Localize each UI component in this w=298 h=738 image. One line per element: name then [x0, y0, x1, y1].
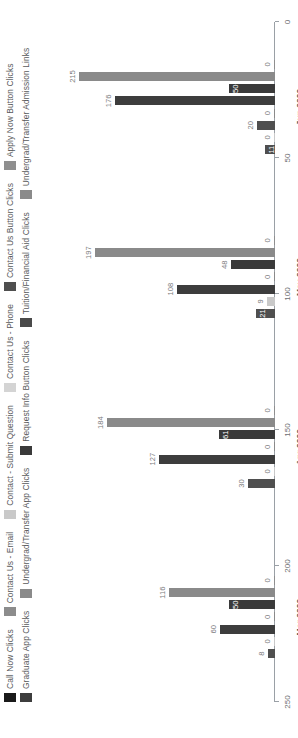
legend-swatch-icon — [4, 693, 16, 702]
bar-value-label: 0 — [263, 639, 272, 643]
category-axis-label: May 2020 — [295, 258, 298, 296]
bar[interactable]: 176 — [115, 96, 276, 105]
legend-swatch-icon — [20, 693, 32, 702]
legend-item[interactable]: Contact - Submit Question — [4, 405, 16, 519]
bar-value-label: 0 — [263, 578, 272, 582]
bar-value-label: 20 — [246, 121, 255, 129]
plot-area: 25020015010050080600501160Mar 2020300127… — [47, 22, 275, 702]
legend-item[interactable]: Request Info Button Clicks — [20, 340, 32, 454]
legend-item-label: Contact Us Button Clicks — [5, 183, 15, 278]
bar[interactable]: 0 — [274, 576, 275, 585]
legend-item[interactable]: Contact Us - Email — [4, 532, 16, 617]
bar[interactable]: 30 — [248, 479, 275, 488]
bar-chart-figure: Call Now ClicksContact Us - EmailContact… — [0, 0, 298, 738]
legend-swatch-icon — [20, 589, 32, 598]
legend-row: Call Now ClicksContact Us - EmailContact… — [4, 12, 16, 702]
legend-item-label: Call Now Clicks — [5, 629, 15, 689]
bar[interactable]: 21 — [256, 309, 275, 318]
bar[interactable]: 9 — [267, 297, 275, 306]
bar[interactable]: 197 — [95, 248, 275, 257]
axis-tick — [275, 157, 279, 158]
legend-item[interactable]: Contact Us - Phone — [4, 304, 16, 392]
bar-group: 110200176502150Jun 2020 — [47, 22, 275, 192]
legend-item-label: Graduate App Clicks — [21, 611, 31, 689]
bar[interactable]: 116 — [169, 588, 275, 597]
bar-value-label: 0 — [263, 275, 272, 279]
bar[interactable]: 11 — [265, 145, 275, 154]
bar[interactable]: 0 — [274, 133, 275, 142]
legend-item-label: Undergrad/Transfer Admission Links — [21, 48, 31, 187]
legend-item[interactable]: Call Now Clicks — [4, 629, 16, 702]
legend-swatch-icon — [4, 282, 16, 291]
bar[interactable]: 184 — [107, 418, 275, 427]
bar-value-label: 48 — [220, 261, 229, 269]
bar[interactable]: 0 — [274, 613, 275, 622]
bar-value-label: 0 — [263, 111, 272, 115]
bar[interactable]: 20 — [257, 121, 275, 130]
legend-swatch-icon — [20, 190, 32, 199]
bar-value-label: 197 — [84, 246, 93, 259]
bar-value-label: 60 — [209, 625, 218, 633]
legend-swatch-icon — [4, 383, 16, 392]
bar[interactable]: 8 — [268, 649, 275, 658]
bar[interactable]: 48 — [231, 260, 275, 269]
rotated-figure-container: Call Now ClicksContact Us - EmailContact… — [0, 0, 298, 738]
bar[interactable]: 50 — [229, 84, 275, 93]
legend-item[interactable]: Apply Now Button Clicks — [4, 64, 16, 171]
bar-value-label: 50 — [231, 601, 240, 609]
bar-value-label: 61 — [221, 431, 230, 439]
axis-tick — [275, 565, 279, 566]
category-axis-label: Apr 2020 — [295, 429, 298, 465]
bar[interactable]: 215 — [79, 72, 275, 81]
bar-value-label: 0 — [263, 135, 272, 139]
axis-tick — [275, 293, 279, 294]
bar-group: 3001270611840Apr 2020 — [47, 362, 275, 532]
legend-item-label: Tuition/Financial Aid Clicks — [21, 212, 31, 314]
category-axis-label: Mar 2020 — [295, 599, 298, 636]
bar-value-label: 116 — [158, 587, 167, 599]
axis-tick-label: 250 — [283, 695, 292, 708]
bar-value-label: 8 — [257, 651, 266, 655]
bar[interactable]: 0 — [274, 467, 275, 476]
axis-tick-label: 150 — [283, 423, 292, 436]
legend-item-label: Apply Now Button Clicks — [5, 64, 15, 158]
bar[interactable]: 108 — [177, 285, 275, 294]
chart-legend: Call Now ClicksContact Us - EmailContact… — [4, 12, 32, 702]
category-axis-label: Jun 2020 — [295, 89, 298, 126]
axis-tick-label: 50 — [283, 154, 292, 163]
legend-item-label: Contact - Submit Question — [5, 405, 15, 506]
legend-item-label: Contact Us - Email — [5, 532, 15, 604]
legend-swatch-icon — [20, 446, 32, 455]
axis-tick — [275, 429, 279, 430]
bar[interactable]: 127 — [159, 455, 275, 464]
legend-swatch-icon — [20, 318, 32, 327]
bar-group: 80600501160Mar 2020 — [47, 532, 275, 702]
bar[interactable]: 0 — [274, 443, 275, 452]
legend-item[interactable]: Undergrad/Transfer Admission Links — [20, 48, 32, 200]
bar[interactable]: 0 — [274, 236, 275, 245]
bar-value-label: 215 — [68, 70, 77, 83]
bar-value-label: 0 — [263, 445, 272, 449]
bar-group: 2191080481970May 2020 — [47, 192, 275, 362]
bar[interactable]: 0 — [274, 60, 275, 69]
bar-value-label: 127 — [148, 453, 157, 466]
bar[interactable]: 60 — [220, 625, 275, 634]
bar-value-label: 0 — [263, 62, 272, 66]
legend-item[interactable]: Tuition/Financial Aid Clicks — [20, 212, 32, 327]
bar[interactable]: 0 — [274, 637, 275, 646]
bar[interactable]: 61 — [219, 430, 275, 439]
bar-value-label: 0 — [263, 615, 272, 619]
axis-tick — [275, 21, 279, 22]
bar-value-label: 30 — [237, 479, 246, 487]
bar-value-label: 50 — [231, 84, 240, 92]
bar[interactable]: 0 — [274, 406, 275, 415]
legend-item[interactable]: Contact Us Button Clicks — [4, 183, 16, 291]
bar[interactable]: 50 — [229, 600, 275, 609]
bar[interactable]: 0 — [274, 273, 275, 282]
chart-page: Call Now ClicksContact Us - EmailContact… — [0, 0, 298, 738]
legend-item[interactable]: Undergrad/Transfer App Clicks — [20, 468, 32, 598]
legend-swatch-icon — [4, 161, 16, 170]
bar[interactable]: 0 — [274, 109, 275, 118]
bar-value-label: 11 — [267, 146, 276, 154]
legend-item[interactable]: Graduate App Clicks — [20, 611, 32, 702]
